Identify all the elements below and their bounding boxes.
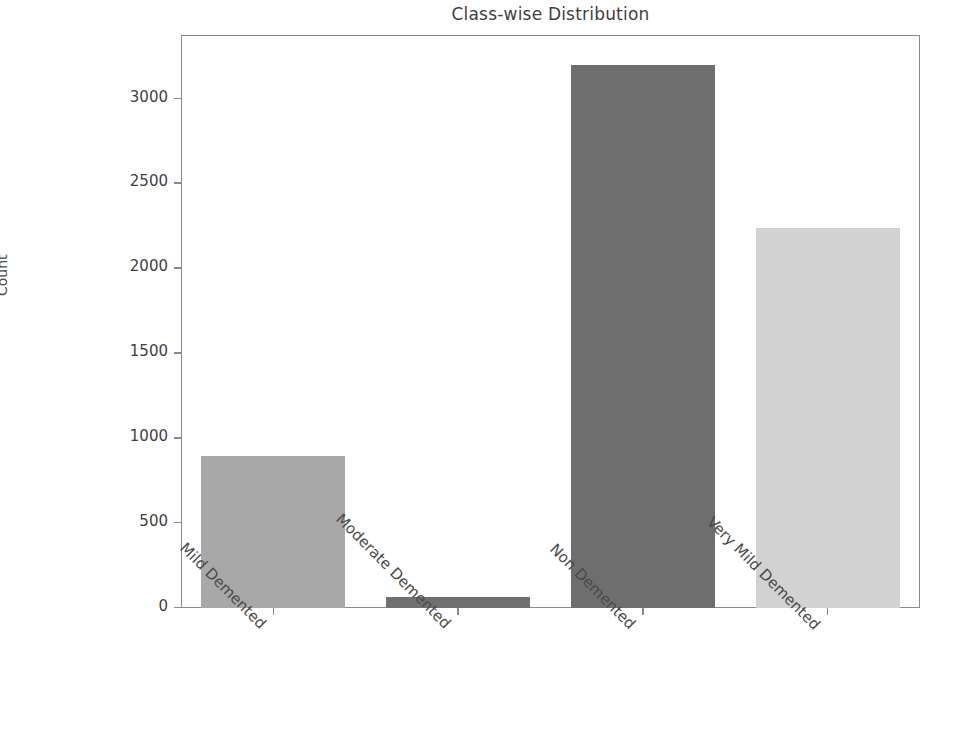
y-tick-mark xyxy=(174,607,181,608)
x-tick-mark xyxy=(273,608,274,615)
y-tick-mark xyxy=(174,98,181,99)
y-tick-mark xyxy=(174,267,181,268)
bar xyxy=(571,65,715,608)
y-tick-label: 1500 xyxy=(130,342,168,360)
x-tick-mark xyxy=(642,608,643,615)
y-tick-mark xyxy=(174,437,181,438)
chart-title: Class-wise Distribution xyxy=(181,4,920,24)
y-tick-label: 1000 xyxy=(130,427,168,445)
y-tick-mark xyxy=(174,352,181,353)
x-tick-mark xyxy=(457,608,458,615)
plot-area xyxy=(181,35,920,608)
x-tick-mark xyxy=(827,608,828,615)
y-tick-label: 3000 xyxy=(130,88,168,106)
y-tick-label: 0 xyxy=(158,597,168,615)
figure-canvas: Class-wise Distribution Count 0500100015… xyxy=(0,0,963,735)
bar xyxy=(756,228,900,608)
y-tick-mark xyxy=(174,182,181,183)
y-axis-label: Count xyxy=(0,254,10,296)
y-tick-mark xyxy=(174,522,181,523)
y-tick-label: 2500 xyxy=(130,172,168,190)
y-tick-label: 2000 xyxy=(130,257,168,275)
y-tick-label: 500 xyxy=(139,512,168,530)
